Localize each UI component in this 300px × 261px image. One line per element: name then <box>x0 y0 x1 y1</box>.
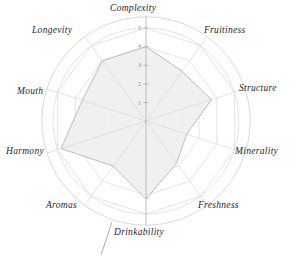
axis-label-mouth: Mouth <box>17 87 43 97</box>
tick-label-3: 3 <box>138 62 141 68</box>
radar-plot-area <box>0 0 300 261</box>
axis-label-harmony: Harmony <box>6 147 44 157</box>
axis-label-freshness: Freshness <box>198 201 239 211</box>
series-polygon <box>61 47 211 200</box>
axis-label-structure: Structure <box>239 84 277 94</box>
tick-label-1: 1 <box>138 100 141 106</box>
axis-label-aromas: Aromas <box>46 201 77 211</box>
radar-chart: Complexity Fruitiness Structure Minerali… <box>0 0 300 261</box>
axis-label-minerality: Minerality <box>235 147 278 157</box>
tick-label-2: 2 <box>138 81 141 87</box>
drinkability-pointer-tick <box>101 222 112 255</box>
axis-label-drinkability: Drinkability <box>114 228 164 238</box>
axis-label-longevity: Longevity <box>32 26 72 36</box>
axis-label-fruitiness: Fruitiness <box>204 26 246 36</box>
tick-label-4: 4 <box>138 43 141 49</box>
tick-label-5: 5 <box>138 25 141 31</box>
axis-label-complexity: Complexity <box>110 4 156 14</box>
